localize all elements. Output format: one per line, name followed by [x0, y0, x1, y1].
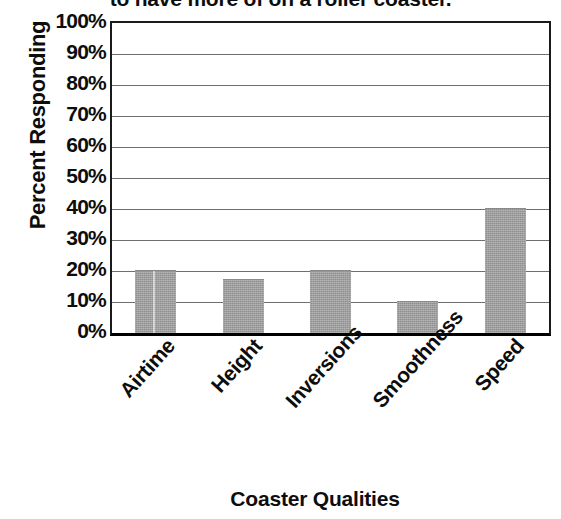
bar-slot — [397, 23, 438, 333]
bar-chart-figure: to have more of on a roller coaster. Per… — [0, 0, 561, 519]
plot-area — [110, 21, 551, 336]
x-axis-tick-label: Inversions — [280, 334, 354, 412]
y-axis-tick-label: 100% — [24, 9, 106, 33]
bar-height[interactable] — [223, 279, 264, 333]
y-axis-tick-label: 10% — [24, 288, 106, 312]
bar-slot — [310, 23, 351, 333]
y-axis-tick-label: 40% — [24, 195, 106, 219]
bar-speed[interactable] — [485, 208, 526, 333]
y-axis-tick-label: 20% — [24, 257, 106, 281]
y-axis-tick-label: 80% — [24, 71, 106, 95]
bar-scan-seam — [153, 271, 155, 333]
x-axis-title: Coaster Qualities — [80, 487, 550, 511]
bars-layer — [112, 23, 549, 333]
y-axis-tick-label: 90% — [24, 40, 106, 64]
y-axis-tick-label: 0% — [24, 319, 106, 343]
x-axis-tick-label: Height — [193, 334, 267, 412]
bar-slot — [485, 23, 526, 333]
x-axis-tick-labels: AirtimeHeightInversionsSmoothnessSpeed — [110, 334, 547, 464]
y-axis-tick-labels: 100%90%80%70%60%50%40%30%20%10%0% — [24, 21, 106, 331]
bar-slot — [135, 23, 176, 333]
y-axis-tick-label: 70% — [24, 102, 106, 126]
bar-airtime[interactable] — [135, 270, 176, 333]
y-axis-tick-label: 30% — [24, 226, 106, 250]
y-axis-tick-label: 50% — [24, 164, 106, 188]
x-axis-tick-label: Airtime — [105, 334, 179, 412]
y-axis-tick-label: 60% — [24, 133, 106, 157]
x-axis-tick-label: Speed — [455, 334, 529, 412]
x-axis-tick-label: Smoothness — [368, 334, 442, 412]
bar-slot — [223, 23, 264, 333]
